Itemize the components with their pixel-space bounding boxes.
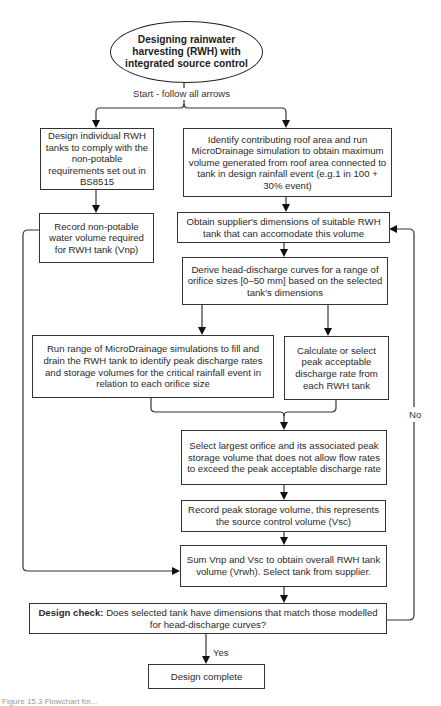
sum-volumes-box: Sum Vnp and Vsc to obtain overall RWH ta… [180,545,387,587]
derive-curves-box: Derive head-discharge curves for a range… [182,257,388,305]
design-check-bold: Design check: [38,607,103,618]
sum-volumes-text: Sum Vnp and Vsc to obtain overall RWH ta… [184,554,383,577]
obtain-supplier-box: Obtain supplier's dimensions of suitable… [177,212,390,243]
start-node: Designing rainwater harvesting (RWH) wit… [110,21,263,83]
identify-roof-box: Identify contributing roof area and run … [183,128,392,197]
record-nonpotable-text: Record non-potable water volume required… [43,221,150,256]
no-label: No [409,409,421,420]
calculate-peak-box: Calculate or select peak acceptable disc… [284,336,389,400]
start-node-text: Designing rainwater harvesting (RWH) wit… [111,34,262,71]
start-label: Start - follow all arrows [133,88,230,99]
design-individual-text: Design individual RWH tanks to comply wi… [44,130,150,188]
obtain-supplier-text: Obtain supplier's dimensions of suitable… [181,216,386,239]
record-peak-text: Record peak storage volume, this represe… [185,504,382,527]
design-check-box: Design check: Does selected tank have di… [29,603,387,634]
record-nonpotable-box: Record non-potable water volume required… [39,213,154,263]
record-peak-box: Record peak storage volume, this represe… [181,500,386,532]
derive-curves-text: Derive head-discharge curves for a range… [186,264,384,299]
run-range-text: Run range of MicroDrainage simulations t… [36,343,270,389]
design-check-question: Does selected tank have dimensions that … [103,607,377,630]
run-range-box: Run range of MicroDrainage simulations t… [32,335,274,398]
design-complete-box: Design complete [148,664,265,689]
design-individual-box: Design individual RWH tanks to comply wi… [40,128,154,190]
design-check-text: Design check: Does selected tank have di… [33,607,383,630]
design-complete-text: Design complete [171,671,242,683]
select-largest-box: Select largest orifice and its associate… [181,430,387,485]
figure-caption: Figure 15.3 Flowchart for... [2,697,97,706]
identify-roof-text: Identify contributing roof area and run … [187,134,388,192]
calculate-peak-text: Calculate or select peak acceptable disc… [288,345,385,391]
yes-label: Yes [213,647,229,658]
select-largest-text: Select largest orifice and its associate… [185,440,383,475]
